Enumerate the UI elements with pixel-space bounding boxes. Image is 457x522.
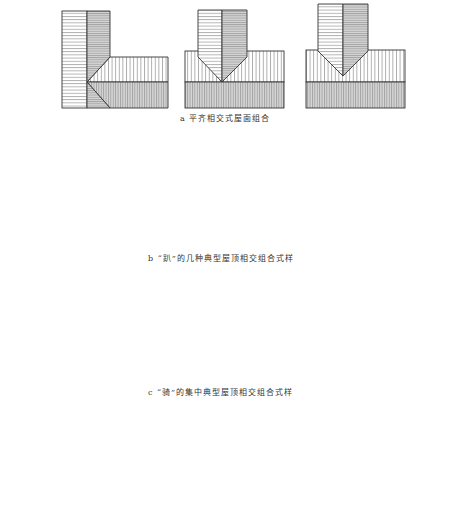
figure-a3 [306,4,405,108]
caption-c: c “骑”的集中典型屋顶相交组合式样 [148,386,293,397]
caption-a: a 平齐相交式屋面组合 [180,112,270,123]
figure-a1 [62,11,168,108]
caption-b: b “趴”的几种典型屋顶相交组合式样 [148,252,294,263]
figure-a2 [185,10,284,108]
